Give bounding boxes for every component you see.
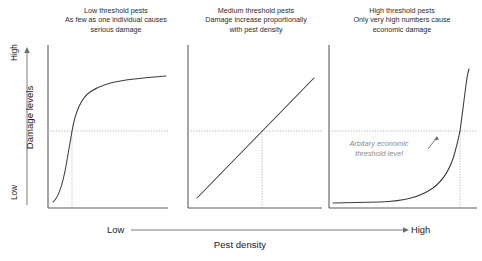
figure-canvas bbox=[0, 0, 482, 261]
panel-title-low-threshold: Low threshold pests As few as one indivi… bbox=[46, 6, 186, 34]
x-axis-low-label: Low bbox=[107, 224, 124, 235]
y-axis-title: Damage levels bbox=[24, 71, 35, 165]
economic-threshold-annotation: Arbitary economic threshold level bbox=[333, 139, 425, 158]
y-axis-low-label: Low bbox=[10, 178, 19, 208]
panel1-curve bbox=[53, 76, 166, 202]
panel-title-high-threshold: High threshold pests Only very high numb… bbox=[326, 6, 478, 34]
panel3-curve bbox=[333, 69, 469, 203]
x-axis-arrow bbox=[131, 227, 409, 233]
panel-medium-threshold bbox=[188, 45, 322, 208]
y-axis-high-label: High bbox=[10, 38, 19, 68]
pest-damage-threshold-figure: Low threshold pests As few as one indivi… bbox=[0, 0, 482, 261]
panel-high-threshold bbox=[329, 45, 477, 208]
x-axis-title: Pest density bbox=[160, 239, 320, 250]
x-axis-high-label: High bbox=[411, 224, 430, 235]
threshold-pointer-arrow-icon bbox=[428, 136, 439, 149]
panel-low-threshold bbox=[48, 45, 168, 208]
panel-title-medium-threshold: Medium threshold pests Damage increase p… bbox=[186, 6, 326, 34]
panel2-curve bbox=[197, 78, 314, 198]
